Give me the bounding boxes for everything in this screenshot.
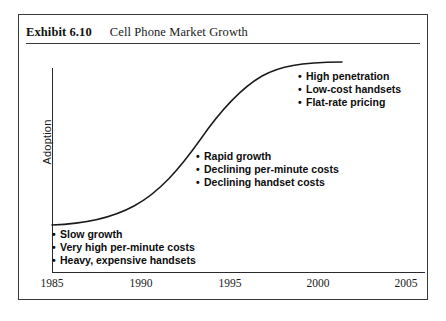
bullet-glyph-icon: • [196,163,204,176]
annotation-bullet-row: •Flat-rate pricing [298,96,401,109]
annotation-text: Very high per-minute costs [60,241,195,253]
x-tick-1990: 1990 [119,277,163,289]
bullet-glyph-icon: • [196,150,204,163]
bullet-glyph-icon: • [52,241,60,254]
bullet-glyph-icon: • [298,70,306,83]
x-tick-1995: 1995 [208,277,252,289]
y-axis-label: Adoption [41,92,53,192]
annotation-bullet-row: •Slow growth [52,228,196,241]
annotation-text: Slow growth [60,228,122,240]
exhibit-figure: Exhibit 6.10 Cell Phone Market Growth Ad… [0,0,446,321]
annotation-bullet-row: •High penetration [298,70,401,83]
annotation-text: Declining handset costs [204,176,325,188]
annotation-bullet-row: •Rapid growth [196,150,339,163]
x-tick-2005: 2005 [384,277,428,289]
annotation-growth-stage: •Rapid growth •Declining per-minute cost… [196,150,339,190]
bullet-glyph-icon: • [196,176,204,189]
x-tick-1985: 1985 [30,277,74,289]
x-tick-2000: 2000 [296,277,340,289]
annotation-bullet-row: •Low-cost handsets [298,83,401,96]
annotation-bullet-row: •Heavy, expensive handsets [52,254,196,267]
annotation-text: Declining per-minute costs [204,163,339,175]
x-axis-line [52,272,425,273]
annotation-bullet-row: •Declining handset costs [196,176,339,189]
annotation-text: Heavy, expensive handsets [60,254,196,266]
annotation-bullet-row: •Declining per-minute costs [196,163,339,176]
bullet-glyph-icon: • [298,83,306,96]
annotation-bullet-row: •Very high per-minute costs [52,241,196,254]
annotation-maturity-stage: •High penetration •Low-cost handsets •Fl… [298,70,401,110]
annotation-text: High penetration [306,70,389,82]
chart-plot-area: Adoption 1985 1990 1995 2000 2005 •High … [0,0,446,321]
annotation-text: Rapid growth [204,150,271,162]
bullet-glyph-icon: • [52,228,60,241]
annotation-text: Flat-rate pricing [306,96,385,108]
annotation-text: Low-cost handsets [306,83,401,95]
bullet-glyph-icon: • [298,96,306,109]
annotation-early-stage: •Slow growth •Very high per-minute costs… [52,228,196,268]
bullet-glyph-icon: • [52,254,60,267]
